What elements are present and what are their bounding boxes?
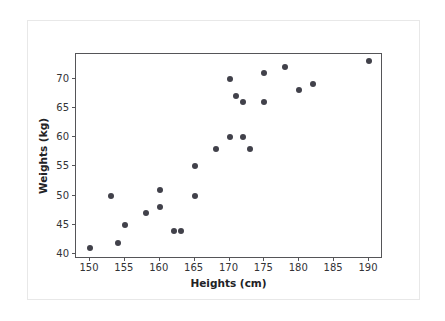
x-tick-mark — [124, 258, 125, 261]
x-tick-label: 170 — [219, 262, 238, 273]
x-tick-mark — [89, 258, 90, 261]
y-axis-label-text: Weights (kg) — [37, 118, 49, 194]
x-axis-label: Heights (cm) — [75, 277, 382, 289]
x-tick-label: 185 — [324, 262, 343, 273]
x-tick-label: 190 — [358, 262, 377, 273]
y-tick-label: 65 — [56, 101, 69, 112]
scatter-point — [157, 187, 163, 193]
y-tick-label: 45 — [56, 219, 69, 230]
x-tick-label: 155 — [114, 262, 133, 273]
x-tick-label: 180 — [289, 262, 308, 273]
x-tick-label: 175 — [254, 262, 273, 273]
scatter-points-layer — [76, 54, 381, 257]
scatter-point — [261, 70, 267, 76]
x-tick-mark — [333, 258, 334, 261]
scatter-point — [233, 93, 239, 99]
scatter-point — [240, 134, 246, 140]
scatter-point — [310, 81, 316, 87]
y-axis-label: Weights (kg) — [36, 53, 50, 258]
x-tick-label: 165 — [184, 262, 203, 273]
scatter-point — [213, 146, 219, 152]
x-tick-mark — [194, 258, 195, 261]
x-tick-label: 160 — [149, 262, 168, 273]
y-tick-label: 50 — [56, 189, 69, 200]
x-tick-mark — [368, 258, 369, 261]
y-tick-label: 55 — [56, 160, 69, 171]
axes-frame — [75, 53, 382, 258]
scatter-point — [178, 228, 184, 234]
scatter-point — [296, 87, 302, 93]
scatter-point — [261, 99, 267, 105]
x-tick-mark — [298, 258, 299, 261]
scatter-point — [227, 134, 233, 140]
scatter-point — [247, 146, 253, 152]
y-tick-label: 40 — [56, 248, 69, 259]
scatter-point — [108, 193, 114, 199]
scatter-point — [227, 76, 233, 82]
x-tick-label: 150 — [79, 262, 98, 273]
scatter-point — [366, 58, 372, 64]
scatter-point — [115, 240, 121, 246]
y-tick-label: 70 — [56, 72, 69, 83]
scatter-point — [143, 210, 149, 216]
y-tick-label: 60 — [56, 131, 69, 142]
x-tick-mark — [229, 258, 230, 261]
x-tick-mark — [263, 258, 264, 261]
scatter-point — [157, 204, 163, 210]
scatter-point — [192, 193, 198, 199]
plot-area: Weights (kg) Heights (cm) 40455055606570… — [28, 21, 421, 301]
x-tick-mark — [159, 258, 160, 261]
scatter-point — [122, 222, 128, 228]
scatter-point — [171, 228, 177, 234]
figure-card: Weights (kg) Heights (cm) 40455055606570… — [27, 20, 420, 300]
scatter-point — [282, 64, 288, 70]
scatter-point — [240, 99, 246, 105]
scatter-point — [87, 245, 93, 251]
scatter-point — [192, 163, 198, 169]
